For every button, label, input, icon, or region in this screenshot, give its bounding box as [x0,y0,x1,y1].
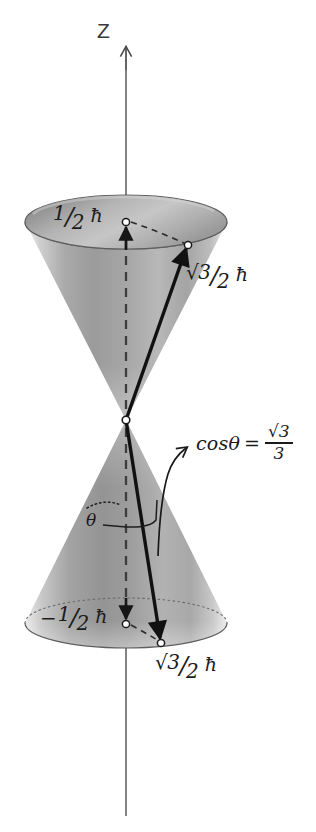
diagram-canvas [0,0,316,832]
lower-vector-label: √3/2 ħ [155,652,217,677]
cos-theta-numerator: √3 [265,423,293,442]
lower-projection-minus-sign: − [40,606,57,630]
marker-apex [122,416,130,424]
cos-theta-fraction: √3 3 [265,423,293,463]
marker-lower-vector-tip [157,639,164,646]
lower-projection-label: − 1/2 ħ [40,604,107,629]
upper-projection-denominator: 2 [72,210,85,234]
upper-vector-radical: √3 [186,262,210,282]
spin-cone-figure: Z 1/2 ħ √3/2 ħ cosθ = √3 3 θ − 1/2 ħ √3/… [0,0,316,832]
marker-upper-projection [122,218,129,225]
upper-vector-denominator: 2 [217,269,230,293]
lower-vector-fraction: √3/2 [155,652,201,677]
cos-theta-denominator: 3 [270,444,287,463]
marker-lower-projection [122,620,129,627]
cos-theta-lhs: cosθ [196,434,240,453]
lower-vector-hbar-icon: ħ [205,653,217,675]
lower-vector-denominator: 2 [186,659,199,683]
lower-projection-hbar-icon: ħ [95,605,107,627]
upper-vector-fraction: √3/2 [186,262,232,287]
upper-projection-numerator: 1 [53,201,65,225]
lower-projection-denominator: 2 [76,611,89,635]
lower-vector-radical: √3 [155,652,179,672]
z-axis-label: Z [97,20,110,41]
marker-upper-vector-tip [184,241,191,248]
lower-projection-fraction: 1/2 [58,604,91,629]
upper-projection-label: 1/2 ħ [53,203,103,228]
upper-projection-hbar-icon: ħ [90,204,102,226]
cos-theta-annotation: cosθ = √3 3 [196,424,293,464]
theta-symbol-label: θ [86,512,96,529]
cos-theta-equals: = [244,434,260,453]
upper-vector-hbar-icon: ħ [236,263,248,285]
upper-vector-label: √3/2 ħ [186,262,248,287]
lower-projection-numerator: 1 [58,602,70,626]
upper-projection-fraction: 1/2 [53,203,86,228]
